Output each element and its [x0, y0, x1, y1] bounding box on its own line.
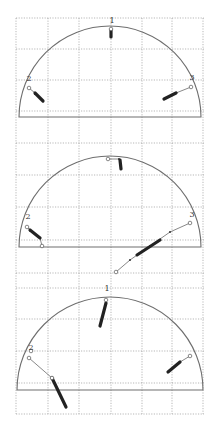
point-label: 2	[28, 343, 33, 352]
trajectory-dense-cluster	[52, 378, 66, 407]
data-point-marker	[169, 231, 171, 233]
semicircle-outline	[19, 156, 201, 247]
open-circle-marker	[109, 27, 113, 31]
open-circle-marker	[50, 376, 54, 380]
trajectory-dense-cluster	[168, 362, 180, 372]
trajectory-dense-cluster	[120, 160, 121, 169]
trajectory-dense-cluster	[100, 303, 106, 326]
data-point-marker	[129, 259, 131, 261]
open-circle-marker	[104, 298, 108, 302]
open-circle-marker	[189, 85, 193, 89]
trajectory-2: 2	[26, 74, 43, 101]
trajectory-2: 2	[27, 343, 66, 407]
point-label: 1	[104, 284, 109, 293]
trajectory-dense-cluster	[35, 93, 43, 101]
open-circle-marker	[188, 221, 192, 225]
open-circle-marker	[25, 225, 29, 229]
trajectory-3: 3	[164, 73, 195, 99]
trajectory-1	[106, 157, 121, 169]
open-circle-marker	[27, 356, 31, 360]
point-label: 3	[189, 210, 194, 219]
open-circle-marker	[106, 157, 110, 161]
panel-2: 23	[19, 156, 201, 274]
panels: 1232312	[17, 16, 203, 407]
trajectory-3	[168, 354, 192, 372]
trajectory-dense-cluster	[30, 230, 40, 238]
point-label: 1	[109, 16, 114, 25]
open-circle-marker	[40, 244, 44, 248]
panel-1: 123	[19, 16, 201, 117]
figure-canvas: 1232312	[0, 0, 215, 431]
point-label: 2	[25, 212, 30, 221]
semicircle-trajectory-diagram: 1232312	[0, 0, 215, 431]
semicircle-outline	[19, 26, 201, 117]
semicircle-outline	[17, 297, 203, 390]
trajectory-thin-line	[176, 87, 191, 93]
panel-3: 12	[17, 284, 203, 407]
open-circle-marker	[27, 86, 31, 90]
trajectory-2: 2	[25, 212, 44, 248]
trajectory-3: 3	[114, 210, 194, 274]
background-grid	[16, 18, 204, 414]
trajectory-thin-line	[29, 358, 52, 378]
open-circle-marker	[114, 270, 118, 274]
trajectory-1: 1	[100, 284, 110, 326]
trajectory-dense-cluster	[164, 93, 176, 99]
point-label: 3	[189, 73, 194, 82]
open-circle-marker	[188, 354, 192, 358]
point-label: 2	[26, 74, 31, 83]
